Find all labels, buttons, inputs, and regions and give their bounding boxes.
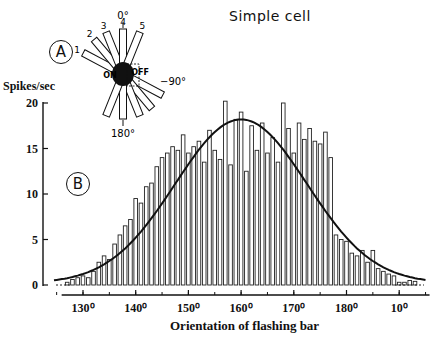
x-tick-label: 10⁰ [391,301,408,315]
panel-label-a: A [49,40,73,64]
data-bar [234,119,238,285]
data-bar [339,240,343,286]
data-bar [313,141,317,285]
angle-label-180: 180° [111,128,135,139]
data-bar [213,150,217,285]
data-bar [318,144,322,285]
x-tick-label: 180⁰ [335,301,358,315]
x-axis-label: Orientation of flashing bar [170,318,319,334]
data-bar [108,260,112,285]
x-tick-label: 150⁰ [177,301,200,315]
y-tick-label: 20 [26,96,38,110]
data-bar [118,235,122,285]
data-bar [139,203,143,285]
data-bar [81,276,85,285]
y-tick-label: 5 [32,233,38,247]
data-bar [229,165,233,285]
data-bar [387,274,391,285]
data-bar [345,241,349,285]
data-bar [266,153,270,285]
y-axis-label: Spikes/sec [3,79,55,94]
data-bar [408,280,412,285]
data-bar [181,135,185,285]
data-bar [166,153,170,285]
data-bar [92,271,96,285]
data-bar [297,123,301,285]
bar-number-label: 3 [101,21,107,31]
off-label: OFF [131,68,149,77]
x-tick-label: 140⁰ [124,301,147,315]
data-bar [202,162,206,285]
panel-label-b: B [66,172,90,196]
data-bar [218,159,222,285]
data-bar [102,256,106,285]
data-bar [376,269,380,285]
data-bar [171,147,175,285]
data-bar [250,126,254,285]
data-bar [355,256,359,285]
bar-number-label: 2 [87,29,93,39]
data-bar [144,187,148,285]
data-bar [123,226,127,285]
data-bar [176,150,180,285]
data-bar [76,278,80,285]
y-tick-label: 15 [26,142,38,156]
data-bar [281,103,285,285]
data-bar [197,141,201,285]
y-tick-label: 0 [32,278,38,292]
data-bar [276,162,280,285]
data-bar [260,123,264,285]
data-bar [371,250,375,285]
bar-number-label: 1 [74,45,80,55]
data-bar [303,139,307,285]
data-bar [366,262,370,285]
x-tick-label: 160⁰ [230,301,253,315]
data-bar [223,101,227,285]
data-bar [113,244,117,285]
data-bar [155,167,159,285]
data-bar [239,112,243,285]
data-bar [134,199,138,285]
x-tick-label: 130⁰ [72,301,95,315]
data-bar [129,219,133,285]
angle-label-0: 0° [117,10,128,21]
data-bar [150,183,154,285]
data-bar [413,281,417,285]
data-bar [208,130,212,285]
x-tick-label: 170⁰ [282,301,305,315]
chart-title: Simple cell [229,8,311,24]
orientation-inset-diagram: 123450°180°−90°ONOFF [74,10,186,139]
on-label: ON [103,71,117,80]
data-bar [271,138,275,285]
data-bar [308,128,312,285]
y-tick-label: 10 [26,187,38,201]
data-bar [361,250,365,285]
data-bar [392,276,396,285]
data-bar [86,278,90,285]
angle-label-90: −90° [160,76,186,87]
data-bar [187,153,191,285]
data-bar [160,158,164,285]
data-bar [192,147,196,285]
data-bar [350,253,354,285]
data-bar [382,271,386,285]
data-bar [292,153,296,285]
data-bar [245,171,249,285]
data-bar [71,280,75,285]
data-bar [255,150,259,285]
bar-number-label: 5 [140,21,146,31]
data-bar [334,235,338,285]
data-bar [287,128,291,285]
